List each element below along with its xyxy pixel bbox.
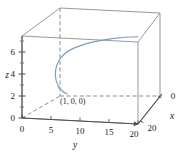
x-tick-20 (140, 121, 144, 123)
x-tick-label-0: 0 (171, 91, 176, 101)
y-axis: 0 5 10 15 20 y (20, 115, 139, 151)
y-tick-label-15: 15 (105, 127, 115, 137)
y-tick-label-10: 10 (76, 126, 86, 136)
z-tick-label-6: 6 (11, 47, 16, 57)
z-tick-label-0: 0 (11, 113, 16, 123)
plot-canvas: 6 4 2 0 z 0 5 10 15 20 y 20 (0, 0, 184, 152)
bounding-box-hidden-edges (22, 8, 160, 118)
x-axis-label: x (169, 111, 175, 121)
space-curve (55, 37, 138, 94)
x-axis: 20 0 x (138, 91, 176, 133)
space-curve-path (55, 37, 138, 94)
x-axis-line (138, 94, 162, 124)
y-tick-label-5: 5 (49, 125, 54, 135)
point-annotation-group: (1, 0, 0) (60, 97, 86, 106)
z-axis-label: z (4, 70, 9, 80)
z-tick-label-2: 2 (11, 91, 16, 101)
x-tick-label-20: 20 (148, 123, 158, 133)
point-label-1-0-0: (1, 0, 0) (60, 97, 86, 106)
y-tick-label-0: 0 (20, 124, 25, 134)
figure-3d-space-curve: 6 4 2 0 z 0 5 10 15 20 y 20 (0, 0, 184, 152)
hidden-edge-back-bottom-left (22, 96, 60, 118)
bounding-box-frame (22, 8, 160, 124)
z-axis: 6 4 2 0 z (4, 36, 25, 123)
z-tick-label-4: 4 (11, 69, 16, 79)
y-tick-label-20: 20 (130, 129, 140, 139)
box-top-face-edges (22, 8, 160, 42)
y-axis-label: y (72, 140, 78, 150)
